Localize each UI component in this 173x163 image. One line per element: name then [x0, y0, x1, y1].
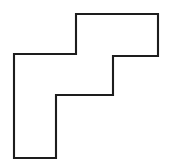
staircase-polygon-svg — [0, 0, 173, 163]
figure-canvas — [0, 0, 173, 163]
staircase-polygon-outline — [14, 14, 158, 158]
